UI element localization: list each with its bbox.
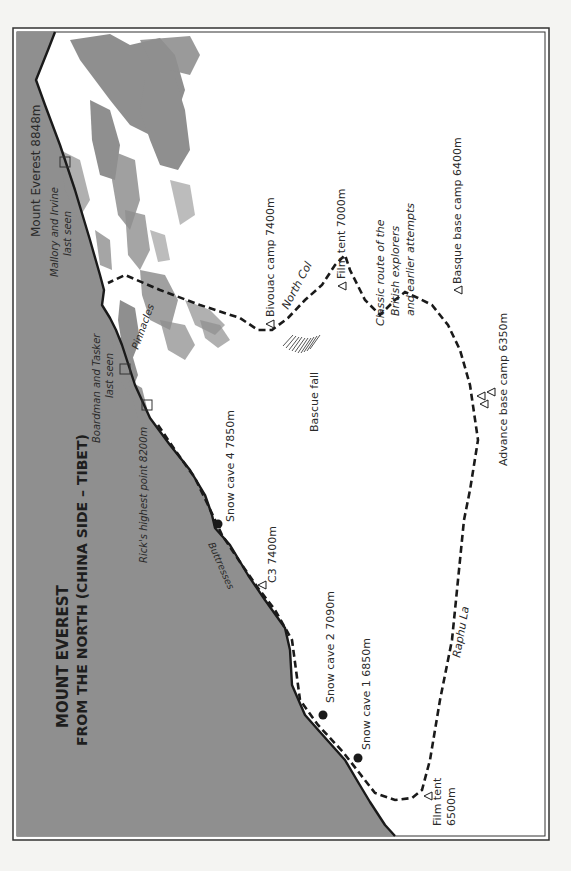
- classic-route-label-line3: and earlier attempts: [404, 203, 417, 316]
- dot-icon-snow-cave-1: [354, 754, 363, 763]
- basque-base-camp-label: Basque base camp 6400m: [451, 137, 464, 284]
- map-title-line2: FROM THE NORTH (CHINA SIDE – TIBET): [74, 434, 90, 746]
- boardman-tasker-label-line1: Boardman and Tasker: [91, 333, 102, 443]
- everest-north-map: MOUNT EVEREST FROM THE NORTH (CHINA SIDE…: [0, 0, 571, 871]
- film-tent-6500-label-line2: 6500m: [445, 787, 458, 826]
- advance-base-camp-label: Advance base camp 6350m: [497, 313, 510, 466]
- mallory-irvine-label-line1: Mallory and Irvine: [49, 187, 60, 277]
- c3-label: C3 7400m: [266, 526, 279, 583]
- map-title-line1: MOUNT EVEREST: [54, 584, 72, 728]
- mallory-irvine-label-line2: last seen: [62, 211, 73, 256]
- film-tent-6500-label-line1: Film tent: [431, 777, 444, 826]
- snow-cave-1-label: Snow cave 1 6850m: [360, 638, 373, 750]
- snow-cave-2-label: Snow cave 2 7090m: [324, 591, 337, 703]
- bivouac-camp-label: Bivouac camp 7400m: [264, 197, 277, 317]
- snow-cave-4-label: Snow cave 4 7850m: [224, 410, 237, 522]
- rick-highest-point-label: Rick's highest point 8200m: [138, 426, 149, 563]
- film-tent-7000-label: Film tent 7000m: [335, 189, 348, 279]
- dot-icon-snow-cave-2: [319, 711, 328, 720]
- boardman-tasker-label-line2: last seen: [104, 353, 115, 398]
- bascue-fall-label: Bascue fall: [308, 372, 321, 432]
- dot-icon-snow-cave-4: [214, 520, 223, 529]
- summit-label: Mount Everest 8848m: [29, 104, 43, 237]
- classic-route-label-line1: Classic route of the: [374, 219, 387, 326]
- classic-route-label-line2: British explorers: [389, 225, 402, 316]
